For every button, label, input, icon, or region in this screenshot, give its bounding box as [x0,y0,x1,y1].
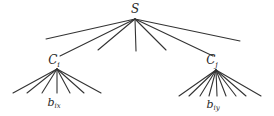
subtree-edges [13,69,261,96]
root-edge [46,19,135,39]
root-edge [135,19,213,56]
leaf-b-ix-subscript: ix [54,102,60,110]
root-edge [60,19,135,56]
subtree-edge [216,70,261,96]
root-edge [135,19,136,51]
leaf-b-iy-subscript: iy [213,104,220,112]
node-c-j: Cj [206,53,218,69]
node-c-j-main: C [206,53,215,67]
leaf-b-ix: bix [47,96,60,110]
node-c-i: Ci [48,53,60,69]
node-c-i-subscript: i [57,60,60,69]
subtree-edge [13,69,57,93]
root-edge [135,19,240,41]
subtree-edge [27,69,57,93]
node-c-i-main: C [48,53,57,67]
leaf-b-iy: biy [206,98,220,112]
leaf-b-ix-main: b [47,96,54,109]
tree-diagram: S Ci Cj bix biy [0,0,274,116]
root-edge [135,19,166,50]
subtree-edge [216,70,217,96]
subtree-edge [216,70,236,96]
root-node-s: S [131,2,139,16]
root-edges [46,19,240,56]
leaf-b-iy-main: b [206,98,213,111]
